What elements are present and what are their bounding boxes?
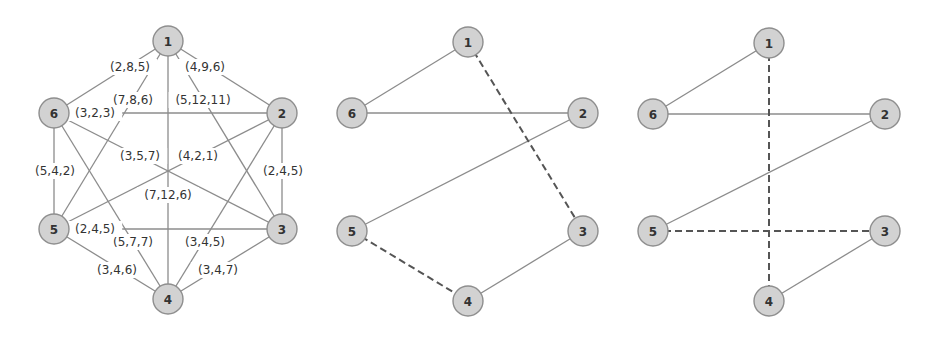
edge-label: (4,2,1) [171,148,225,164]
node-3: 3 [568,216,598,246]
node-label: 4 [765,295,773,309]
node-label: 3 [579,225,587,239]
node-label: 3 [881,225,889,239]
node-label: 6 [348,107,356,121]
edge-weight-label: (3,4,5) [185,235,225,249]
node-label: 2 [579,107,587,121]
node-label: 1 [765,37,773,51]
node-label: 2 [278,107,286,121]
edge-1-6 [352,42,468,113]
edge-weight-label: (4,9,6) [185,60,225,74]
edge-weight-label: (7,8,6) [113,93,153,107]
edge-1-6 [653,43,769,114]
node-label: 4 [464,295,472,309]
node-label: 6 [50,107,58,121]
edge-label: (3,5,7) [113,148,167,164]
edge-label-layer: (2,8,5)(4,9,6)(7,8,6)(5,12,11)(7,12,6)(3… [28,59,310,278]
node-label: 5 [649,225,657,239]
node-3: 3 [267,214,297,244]
solution-graph-a: 123456 [337,27,598,316]
node-4: 4 [153,284,183,314]
edge-label: (7,12,6) [137,187,199,203]
complete-graph: (2,8,5)(4,9,6)(7,8,6)(5,12,11)(7,12,6)(3… [28,26,310,314]
edge-weight-label: (5,12,11) [175,93,230,107]
edge-5-4-dashed [352,231,468,301]
node-1: 1 [153,26,183,56]
node-label: 2 [881,108,889,122]
edge-label: (5,4,2) [28,163,82,179]
node-label: 1 [164,35,172,49]
node-6: 6 [638,99,668,129]
node-5: 5 [39,214,69,244]
edge-weight-label: (2,4,5) [75,222,115,236]
edge-label: (3,4,6) [90,262,144,278]
edge-3-4 [468,231,583,301]
node-label: 5 [348,225,356,239]
node-1: 1 [754,28,784,58]
edge-weight-label: (3,4,7) [198,263,238,277]
node-4: 4 [754,286,784,316]
edge-label: (2,8,5) [103,59,157,75]
edge-weight-label: (5,7,7) [113,235,153,249]
node-2: 2 [870,99,900,129]
edge-label: (3,2,3) [68,105,122,121]
node-3: 3 [870,216,900,246]
node-5: 5 [337,216,367,246]
edge-label: (4,9,6) [178,59,232,75]
edge-layer [352,42,583,301]
edge-1-3-dashed [468,42,583,231]
edge-weight-label: (5,4,2) [35,164,75,178]
edge-weight-label: (2,4,5) [263,164,303,178]
node-2: 2 [568,98,598,128]
edge-weight-label: (3,4,6) [97,263,137,277]
node-label: 3 [278,223,286,237]
node-label: 6 [649,108,657,122]
node-1: 1 [453,27,483,57]
edge-label: (3,4,5) [178,234,232,250]
edge-3-4 [769,231,885,301]
edge-weight-label: (3,2,3) [75,106,115,120]
edge-layer [653,43,885,301]
edge-weight-label: (4,2,1) [178,149,218,163]
edge-weight-label: (3,5,7) [120,149,160,163]
node-label: 5 [50,223,58,237]
edge-2-5 [352,113,583,231]
edge-label: (3,4,7) [191,262,245,278]
edge-layer [54,41,282,299]
edge-weight-label: (2,8,5) [110,60,150,74]
edge-label: (5,12,11) [169,92,238,108]
edge-weight-label: (7,12,6) [144,188,192,202]
edge-label: (2,4,5) [256,163,310,179]
node-label: 4 [164,293,172,307]
node-2: 2 [267,98,297,128]
solution-graph-b: 123456 [638,28,900,316]
node-5: 5 [638,216,668,246]
graph-diagram-canvas: (2,8,5)(4,9,6)(7,8,6)(5,12,11)(7,12,6)(3… [0,0,933,339]
edge-label: (2,4,5) [68,221,122,237]
node-6: 6 [337,98,367,128]
node-label: 1 [464,36,472,50]
node-4: 4 [453,286,483,316]
node-6: 6 [39,98,69,128]
